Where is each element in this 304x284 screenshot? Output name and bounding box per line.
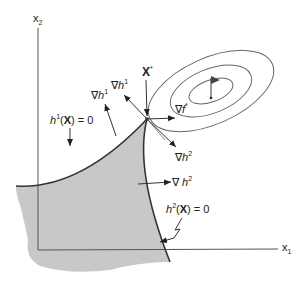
grad-f-arrow	[147, 118, 175, 119]
grad-h2-label-a: ∇h2	[174, 150, 192, 163]
h1-constraint-label: h1(X) = 0	[50, 113, 93, 126]
grad-h2-arrow-a	[147, 119, 176, 147]
grad-h1-label-b: ∇h1	[110, 78, 128, 91]
grad-h2-label-b: ∇ h2	[171, 175, 192, 188]
feasible-region-fill	[16, 119, 170, 272]
grad-h1-label-a: ∇h1	[90, 88, 108, 101]
grad-h1-arrow-a	[105, 104, 116, 136]
x-star-pointer	[146, 80, 147, 116]
h2-constraint-label: h2(X) = 0	[166, 202, 209, 215]
h2-label-leader	[160, 218, 182, 242]
y-axis-label: x2	[33, 12, 43, 26]
grad-h1-arrow-b	[124, 95, 147, 119]
flag-icon	[210, 76, 220, 99]
grad-f-label: ∇f*	[174, 102, 188, 115]
diagram-canvas: x2 x1 X* ∇f* ∇h1 ∇h1 ∇h2 ∇ h2 h1(X) = 0 …	[0, 0, 304, 284]
optimum-label: X*	[142, 65, 153, 79]
x-axis-label: x1	[282, 241, 292, 255]
